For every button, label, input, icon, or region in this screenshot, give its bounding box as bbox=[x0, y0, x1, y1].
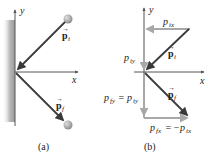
label-p-ix: p ix bbox=[162, 16, 175, 29]
label-p-initial: p i → bbox=[168, 43, 176, 61]
label-p-fx-equals-neg-p-ix: p fx = − p ix bbox=[149, 122, 192, 135]
svg-text:ix: ix bbox=[169, 21, 175, 29]
vector-p-final bbox=[145, 73, 187, 115]
svg-text:f: f bbox=[174, 94, 177, 102]
svg-text:p: p bbox=[149, 122, 155, 133]
svg-text:iy: iy bbox=[133, 97, 139, 105]
ball-final bbox=[64, 121, 73, 130]
svg-text:→: → bbox=[168, 43, 175, 51]
svg-text:p: p bbox=[103, 92, 109, 103]
svg-text:p: p bbox=[126, 92, 132, 103]
panel-a: y x p i → p f → (a) bbox=[2, 5, 78, 153]
vector-p-initial bbox=[18, 22, 65, 69]
svg-text:p: p bbox=[162, 16, 168, 27]
svg-text:=: = bbox=[116, 92, 127, 103]
label-p-final: p f → bbox=[56, 95, 65, 113]
svg-text:→: → bbox=[168, 84, 175, 92]
y-axis-label: y bbox=[19, 5, 25, 16]
wall bbox=[2, 20, 15, 122]
y-axis-label: y bbox=[148, 4, 154, 15]
label-p-initial: p i → bbox=[62, 25, 70, 43]
label-p-iy: p iy bbox=[123, 52, 136, 65]
svg-text:f: f bbox=[62, 105, 65, 113]
svg-text:→: → bbox=[56, 95, 63, 103]
label-p-fy-equals-p-iy: p fy = p iy bbox=[103, 92, 139, 105]
svg-text:ix: ix bbox=[186, 127, 192, 135]
x-axis-label: x bbox=[199, 75, 205, 86]
panel-b: y x p ix p iy p i → p f → p fy bbox=[103, 4, 205, 153]
caption-b: (b) bbox=[144, 141, 156, 153]
svg-text:i: i bbox=[68, 35, 70, 43]
caption-a: (a) bbox=[38, 141, 49, 153]
svg-text:p: p bbox=[123, 52, 129, 63]
svg-text:p: p bbox=[179, 122, 185, 133]
momentum-diagram: y x p i → p f → (a) y x p bbox=[0, 0, 208, 155]
svg-text:fx: fx bbox=[156, 127, 162, 135]
x-axis-label: x bbox=[71, 74, 77, 85]
svg-text:= −: = − bbox=[163, 122, 180, 133]
svg-text:iy: iy bbox=[130, 57, 136, 65]
label-p-final: p f → bbox=[168, 84, 177, 102]
svg-text:i: i bbox=[174, 53, 176, 61]
svg-text:→: → bbox=[62, 25, 69, 33]
